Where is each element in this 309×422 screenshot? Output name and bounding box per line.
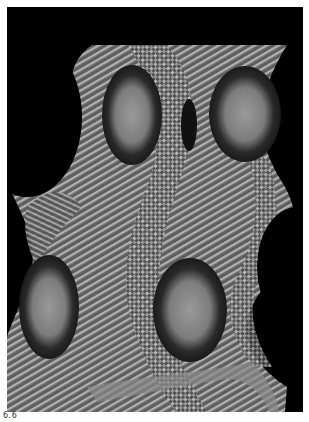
rendered-surface-figure [7,7,303,412]
depression-upper-right [209,66,281,162]
depression-lower-right [153,258,227,362]
surface-render [7,7,303,412]
void-center-slit [181,99,197,151]
figure-caption: 6.6 [3,411,17,421]
depression-upper-left [102,65,162,165]
depression-lower-left [19,255,79,359]
